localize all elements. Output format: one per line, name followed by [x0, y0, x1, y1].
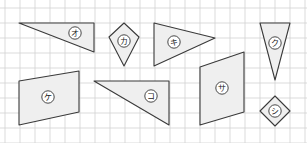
shape-label: オ	[71, 29, 79, 38]
shape-label: ク	[271, 39, 279, 48]
shape-ki: キ	[154, 23, 215, 66]
right-triangle-polygon	[19, 23, 94, 52]
shape-ku: ク	[260, 23, 290, 80]
shape-label: ケ	[44, 93, 52, 102]
shape-label: キ	[170, 38, 178, 47]
shape-label: シ	[271, 107, 279, 116]
shape-label: サ	[218, 84, 226, 93]
shape-sa: サ	[200, 52, 244, 125]
shape-shi: シ	[260, 96, 290, 126]
shape-o: オ	[19, 23, 94, 52]
shape-label: コ	[147, 92, 155, 101]
isosceles-triangle-polygon	[260, 23, 290, 80]
triangle-polygon	[154, 23, 215, 66]
shape-label: カ	[120, 37, 128, 46]
shape-diagram: オカキクケコサシ	[0, 0, 307, 143]
shapes-layer: オカキクケコサシ	[19, 23, 290, 126]
right-triangle-polygon	[94, 81, 169, 125]
figure-svg: オカキクケコサシ	[0, 0, 307, 143]
shape-ka: カ	[109, 23, 139, 66]
grid-lines	[0, 0, 307, 143]
shape-ko: コ	[94, 81, 169, 125]
shape-ke: ケ	[19, 71, 79, 125]
